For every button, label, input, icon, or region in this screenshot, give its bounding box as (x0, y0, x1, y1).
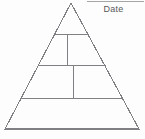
pyramid-diagram (0, 0, 145, 139)
worksheet-canvas: Date (0, 0, 145, 139)
tier-4-base-cell[interactable] (8, 99, 137, 128)
date-rule-line (87, 1, 144, 2)
tier-1-apex-cell[interactable] (56, 6, 87, 33)
tier-2-left-cell[interactable] (42, 35, 67, 64)
date-label: Date (87, 4, 140, 15)
tier-3-right-cell[interactable] (74, 66, 120, 97)
date-field[interactable]: Date (87, 1, 144, 16)
tier-3-left-cell[interactable] (25, 66, 73, 97)
tier-2-right-cell[interactable] (68, 35, 103, 64)
